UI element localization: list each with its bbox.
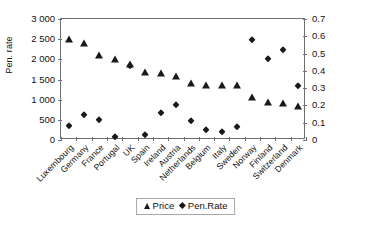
data-point-penrate [279,46,287,54]
plot-area: 05001 0001 5002 0002 5003 000 00.10.20.3… [60,18,305,139]
x-axis-tickmark [76,137,77,141]
x-axis-label: Sweden [214,142,243,171]
diamond-icon [179,203,185,209]
x-axis-label: Switzerland [251,142,290,181]
x-axis-tickmark [184,137,185,141]
data-point-penrate [80,111,88,119]
x-axis-label: Finland [247,142,274,169]
data-point-penrate [187,117,195,125]
data-point-penrate [233,123,241,131]
x-axis-tickmark [214,137,215,141]
legend-item-penrate: Pen.Rate [180,201,227,211]
y-axis-left-tick-label: 1 500 [31,75,55,85]
data-point-price [279,99,287,106]
data-point-price [95,51,103,58]
y-axis-left-tickmark [58,120,62,121]
y-axis-right-tickmark [303,54,307,55]
chart-figure: 05001 0001 5002 0002 5003 000 00.10.20.3… [0,0,371,227]
data-point-price [157,69,165,76]
x-axis-tickmark [306,137,307,141]
x-axis-tickmark [122,137,123,141]
data-point-price [294,102,302,109]
y-axis-left-tick-label: 3 000 [31,14,55,24]
x-axis-label: Luxembourg [34,142,75,183]
y-axis-left-tickmark [58,59,62,60]
y-axis-right-tick-label: 0 [312,135,317,145]
x-axis-tickmark [92,137,93,141]
y-axis-right-tick-label: 0.7 [312,14,325,24]
x-axis-label: Austria [156,142,182,168]
data-point-price [65,36,73,43]
x-axis-tickmark [168,137,169,141]
data-point-price [218,81,226,88]
y-axis-left-tickmark [58,19,62,20]
x-axis-label: Germany [58,142,90,174]
y-axis-right-tick-label: 0.4 [312,66,325,76]
data-point-penrate [172,102,180,110]
y-axis-right-tickmark [303,105,307,106]
y-axis-left-tick-label: 2 500 [31,34,55,44]
data-point-penrate [141,131,149,139]
x-axis-tickmark [153,137,154,141]
data-point-price [264,98,272,105]
x-axis-tickmark [229,137,230,141]
y-axis-right-tick-label: 0.2 [312,101,325,111]
data-point-penrate [157,109,165,117]
data-point-penrate [218,128,226,136]
data-point-penrate [203,127,211,135]
y-axis-right-title: Pen. rate [4,36,14,73]
data-point-penrate [65,122,73,130]
y-axis-left-tick-label: 0 [50,135,55,145]
y-axis-right-tickmark [303,123,307,124]
data-point-penrate [111,134,119,142]
legend-label-price: Price [153,201,175,211]
data-point-price [172,73,180,80]
y-axis-left-tick-label: 2 000 [31,55,55,65]
x-axis-tickmark [199,137,200,141]
y-axis-left-tickmark [58,100,62,101]
data-point-penrate [295,83,303,91]
data-point-price [111,56,119,63]
y-axis-right-tick-label: 0.6 [312,32,325,42]
x-axis-label: Netherlands [157,142,197,182]
y-axis-right-tick-label: 0.5 [312,49,325,59]
x-axis-tickmark [138,137,139,141]
y-axis-left-tick-label: 500 [39,115,55,125]
x-axis-tickmark [275,137,276,141]
x-axis-label: Italy [210,142,228,160]
data-point-penrate [95,116,103,124]
y-axis-right-tickmark [303,36,307,37]
x-axis-tickmark [260,137,261,141]
y-axis-right-tickmark [303,71,307,72]
x-axis-label: France [80,142,106,168]
x-axis-label: Denmark [273,142,305,174]
legend-label-penrate: Pen.Rate [188,201,228,211]
x-axis-label: UK [121,142,137,158]
y-axis-left-tickmark [58,39,62,40]
y-axis-right-tickmark [303,19,307,20]
y-axis-left-tick-label: 1 000 [31,95,55,105]
y-axis-right-tick-label: 0.3 [312,83,325,93]
data-point-price [233,81,241,88]
data-point-penrate [264,55,272,63]
x-axis-label: Norway [231,142,259,170]
x-axis-label: Portugal [91,142,121,172]
x-axis-tickmark [291,137,292,141]
data-point-price [187,79,195,86]
x-axis-tickmark [245,137,246,141]
chart-legend: Price Pen.Rate [136,198,236,215]
x-axis-tickmark [61,137,62,141]
y-axis-left-tickmark [58,80,62,81]
triangle-icon [144,203,150,209]
y-axis-right-tick-label: 0.1 [312,118,325,128]
data-point-price [80,40,88,47]
x-axis-label: Ireland [141,142,167,168]
data-point-price [141,68,149,75]
legend-item-price: Price [144,201,175,211]
x-axis-label: Spain [129,142,152,165]
data-point-price [248,93,256,100]
y-axis-right-tickmark [303,88,307,89]
data-point-price [202,81,210,88]
x-axis-label: Belgium [184,142,213,171]
data-point-penrate [249,36,257,44]
